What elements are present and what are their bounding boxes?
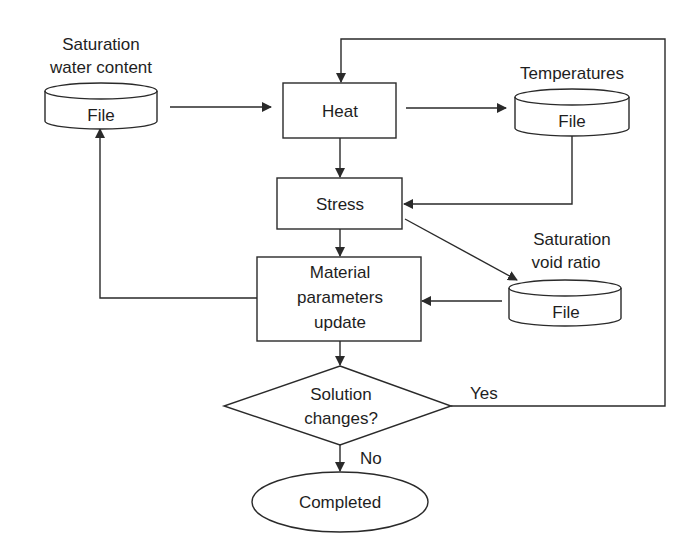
- heat-label: Heat: [322, 102, 358, 121]
- sat-void-title-line2: void ratio: [532, 253, 601, 272]
- node-solution-changes-decision[interactable]: Solution changes?: [224, 366, 451, 445]
- edge-temperatures-to-stress: [404, 135, 572, 204]
- node-saturation-water-content[interactable]: Saturation water content File: [45, 35, 157, 129]
- node-heat[interactable]: Heat: [283, 83, 396, 138]
- sat-water-title-line2: water content: [49, 58, 152, 77]
- temperatures-title: Temperatures: [520, 64, 624, 83]
- temperatures-file-label: File: [558, 112, 585, 131]
- flowchart-canvas: Saturation water content File Heat Tempe…: [0, 0, 700, 555]
- edge-stress-to-satvoid: [405, 219, 517, 280]
- decision-line2: changes?: [304, 409, 378, 428]
- sat-water-file-label: File: [87, 106, 114, 125]
- stress-label: Stress: [316, 195, 364, 214]
- completed-label: Completed: [299, 493, 381, 512]
- sat-void-file-label: File: [552, 303, 579, 322]
- edge-label-yes: Yes: [470, 384, 498, 403]
- node-temperatures[interactable]: Temperatures File: [515, 64, 629, 136]
- material-line1: Material: [310, 263, 370, 282]
- sat-void-title-line1: Saturation: [533, 230, 611, 249]
- node-stress[interactable]: Stress: [277, 178, 402, 229]
- node-completed[interactable]: Completed: [252, 472, 428, 532]
- edge-material-to-satwater: [100, 129, 257, 298]
- sat-water-title-line1: Saturation: [62, 35, 140, 54]
- material-line3: update: [314, 313, 366, 332]
- node-material-parameters-update[interactable]: Material parameters update: [257, 257, 421, 341]
- node-saturation-void-ratio[interactable]: Saturation void ratio File: [509, 230, 621, 326]
- decision-line1: Solution: [310, 385, 371, 404]
- material-line2: parameters: [297, 288, 383, 307]
- edge-label-no: No: [360, 449, 382, 468]
